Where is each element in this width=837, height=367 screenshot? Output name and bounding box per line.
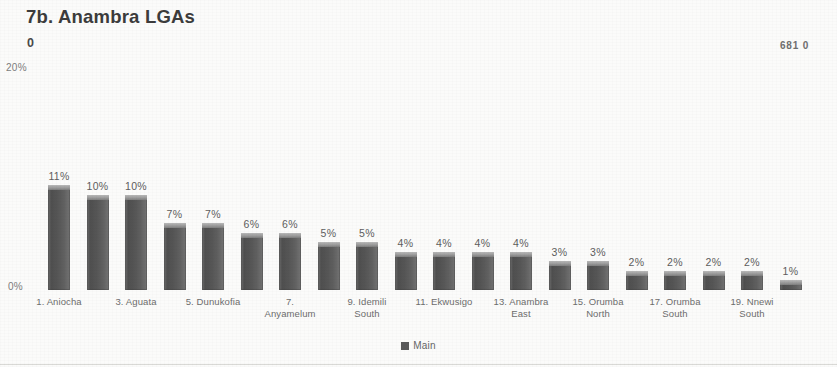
y-axis-tick-top: 20% <box>6 62 27 73</box>
bar-top-cap <box>626 271 648 276</box>
bar[interactable] <box>626 271 648 290</box>
bar[interactable] <box>664 271 686 290</box>
bar[interactable] <box>780 280 802 290</box>
bar[interactable] <box>395 252 417 290</box>
bar[interactable] <box>510 252 532 290</box>
bar-value-label: 2% <box>654 256 696 268</box>
plot-area: 20% 0% 11%10%10%7%7%6%6%5%5%4%4%4%4%3%3%… <box>0 0 837 367</box>
bar-value-label: 3% <box>539 246 581 258</box>
bar[interactable] <box>241 233 263 290</box>
bar-value-label: 7% <box>154 208 196 220</box>
bar-value-label: 2% <box>693 256 735 268</box>
bar[interactable] <box>549 261 571 290</box>
bar-top-cap <box>549 261 571 266</box>
bar-slot: 11% <box>40 100 78 290</box>
bar-value-label: 10% <box>77 180 119 192</box>
bar[interactable] <box>87 195 109 290</box>
legend-swatch-icon <box>401 342 409 350</box>
bar[interactable] <box>703 271 725 290</box>
bar-slot: 2% <box>618 100 656 290</box>
bar-top-cap <box>664 271 686 276</box>
bar-slot: 2% <box>656 100 694 290</box>
bar-top-cap <box>395 252 417 257</box>
bar-value-label: 6% <box>269 218 311 230</box>
x-axis-tick-label-line2: South <box>315 308 419 320</box>
bar[interactable] <box>356 242 378 290</box>
title-sub-zero-value: 0 <box>27 36 34 50</box>
bar-top-cap <box>241 233 263 238</box>
bar[interactable] <box>433 252 455 290</box>
bar-value-label: 5% <box>346 227 388 239</box>
bar-value-label: 1% <box>770 265 812 277</box>
bar[interactable] <box>318 242 340 290</box>
bar-value-label: 5% <box>308 227 350 239</box>
bar-slot: 4% <box>502 100 540 290</box>
x-axis-tick-label-line2: South <box>700 308 804 320</box>
bar-slot: 7% <box>156 100 194 290</box>
x-axis-tick-label-line1: 19. Nnewi <box>700 296 804 308</box>
bar[interactable] <box>202 223 224 290</box>
bar-value-label: 4% <box>500 237 542 249</box>
bar-top-cap <box>780 280 802 285</box>
bar-value-label: 2% <box>616 256 658 268</box>
page-title: 7b. Anambra LGAs <box>26 6 195 28</box>
bar-value-label: 4% <box>385 237 427 249</box>
bar-slot: 3% <box>541 100 579 290</box>
bar-slot: 2% <box>733 100 771 290</box>
bar-value-label: 4% <box>423 237 465 249</box>
chart-figure: 7b. Anambra LGAs 0 681 0 20% 0% 11%10%10… <box>0 0 837 367</box>
y-axis-tick-zero: 0% <box>8 281 23 292</box>
bar[interactable] <box>279 233 301 290</box>
bar-slot: 4% <box>425 100 463 290</box>
bar-top-cap <box>587 261 609 266</box>
bar-top-cap <box>125 195 147 200</box>
bar-top-cap <box>472 252 494 257</box>
bar-value-label: 2% <box>731 256 773 268</box>
chart-legend: Main <box>0 340 837 351</box>
bar-top-cap <box>356 242 378 247</box>
bar[interactable] <box>48 185 70 290</box>
bar-slot: 6% <box>271 100 309 290</box>
bar-slot: 4% <box>464 100 502 290</box>
bar-slot: 6% <box>233 100 271 290</box>
bar-top-cap <box>48 185 70 190</box>
bar-top-cap <box>87 195 109 200</box>
bar-top-cap <box>510 252 532 257</box>
bar-value-label: 7% <box>192 208 234 220</box>
bar-top-cap <box>318 242 340 247</box>
bar[interactable] <box>472 252 494 290</box>
bar-slot: 10% <box>117 100 155 290</box>
bar[interactable] <box>164 223 186 290</box>
bar-value-label: 6% <box>231 218 273 230</box>
corner-value: 681 0 <box>780 40 809 51</box>
legend-label: Main <box>413 340 435 351</box>
bar-top-cap <box>703 271 725 276</box>
bar-slot: 10% <box>79 100 117 290</box>
bar-slot: 2% <box>695 100 733 290</box>
bar-slot: 5% <box>348 100 386 290</box>
bar[interactable] <box>741 271 763 290</box>
bar[interactable] <box>587 261 609 290</box>
x-axis-tick-label: 19. NnewiSouth <box>700 296 804 319</box>
bar-slot: 3% <box>579 100 617 290</box>
bar-slot: 7% <box>194 100 232 290</box>
bar-value-label: 4% <box>462 237 504 249</box>
bar-value-label: 3% <box>577 246 619 258</box>
bar-slot: 1% <box>772 100 810 290</box>
bar-top-cap <box>164 223 186 228</box>
bar-top-cap <box>202 223 224 228</box>
bar-series-container: 11%10%10%7%7%6%6%5%5%4%4%4%4%3%3%2%2%2%2… <box>40 100 810 290</box>
bar-slot: 4% <box>387 100 425 290</box>
bar-value-label: 10% <box>115 180 157 192</box>
bar-slot: 5% <box>310 100 348 290</box>
bar[interactable] <box>125 195 147 290</box>
bar-value-label: 11% <box>38 170 80 182</box>
bar-top-cap <box>279 233 301 238</box>
bar-top-cap <box>433 252 455 257</box>
bar-top-cap <box>741 271 763 276</box>
